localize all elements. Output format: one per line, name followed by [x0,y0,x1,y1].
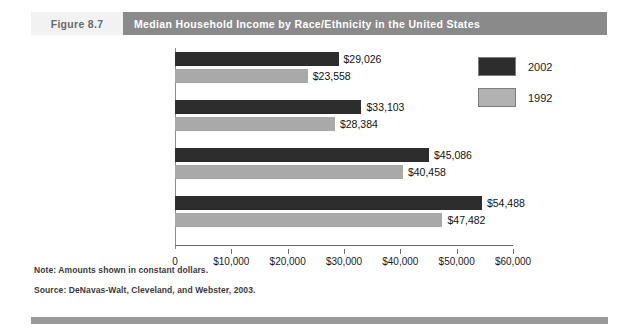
legend-item-2002: 2002 [478,57,552,76]
bar-1992-2 [175,165,403,179]
bar-value-2002-3: $54,488 [487,196,525,210]
figure-header: Figure 8.7 Median Household Income by Ra… [31,12,607,35]
x-tick-label-1: $10,000 [213,256,249,267]
x-tick-label-6: $60,000 [495,256,531,267]
x-tick-label-2: $20,000 [270,256,306,267]
x-tick-6 [513,249,514,254]
bar-value-1992-1: $28,384 [340,117,378,131]
bar-2002-1 [175,100,361,114]
x-tick-4 [400,249,401,254]
legend-swatch-1992 [478,88,516,107]
bar-2002-0 [175,52,339,66]
bar-1992-3 [175,213,442,227]
bar-value-1992-3: $47,482 [447,213,485,227]
x-tick-1 [231,249,232,254]
figure-number-box: Figure 8.7 [31,12,123,35]
bar-1992-0 [175,69,308,83]
figure-title-box: Median Household Income by Race/Ethnicit… [123,12,607,35]
bar-value-2002-1: $33,103 [366,100,404,114]
bar-value-1992-2: $40,458 [408,165,446,179]
bar-2002-3 [175,196,482,210]
bar-value-1992-0: $23,558 [313,69,351,83]
bar-value-2002-2: $45,086 [434,148,472,162]
x-tick-label-3: $30,000 [326,256,362,267]
legend-label-2002: 2002 [528,61,552,73]
bar-1992-1 [175,117,335,131]
x-tick-2 [288,249,289,254]
x-tick-5 [457,249,458,254]
x-tick-label-5: $50,000 [439,256,475,267]
x-tick-label-4: $40,000 [382,256,418,267]
chart-legend: 2002 1992 [478,57,552,119]
legend-swatch-2002 [478,57,516,76]
figure-number-label: Figure 8.7 [51,18,104,30]
legend-item-1992: 1992 [478,88,552,107]
note-line: Note: Amounts shown in constant dollars. [34,265,208,275]
source-line: Source: DeNavas-Walt, Cleveland, and Web… [34,285,255,295]
bar-2002-2 [175,148,429,162]
bottom-rule [31,317,608,324]
bar-value-2002-0: $29,026 [344,52,382,66]
plot-area: AfricanAmerican$29,026$23,558Hispanic$33… [175,48,513,249]
figure-title-label: Median Household Income by Race/Ethnicit… [134,18,480,30]
x-tick-3 [344,249,345,254]
legend-label-1992: 1992 [528,92,552,104]
